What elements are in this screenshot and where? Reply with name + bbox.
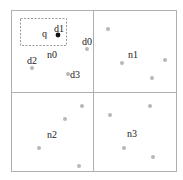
query-label: q (42, 28, 47, 39)
point-label-d1: d1 (54, 23, 64, 34)
data-point-d0 (85, 47, 89, 51)
data-point (163, 58, 167, 62)
data-point (80, 104, 84, 108)
node-label-n0: n0 (47, 49, 57, 60)
point-label-d0: d0 (82, 36, 92, 47)
data-point (151, 155, 155, 159)
node-label-n3: n3 (127, 128, 137, 139)
data-point (63, 117, 67, 121)
data-point (106, 27, 110, 31)
data-point-d2 (30, 66, 34, 70)
data-point (77, 164, 81, 168)
data-point (148, 104, 152, 108)
data-point (150, 76, 154, 80)
point-label-d2: d2 (27, 55, 37, 66)
data-point (37, 146, 41, 150)
quadtree-diagram: qn0n1n2n3d0d1d2d3 (0, 0, 183, 180)
node-label-n1: n1 (128, 49, 138, 60)
data-point (120, 61, 124, 65)
node-label-n2: n2 (47, 129, 57, 140)
data-point (108, 113, 112, 117)
data-point (122, 146, 126, 150)
point-label-d3: d3 (70, 69, 80, 80)
